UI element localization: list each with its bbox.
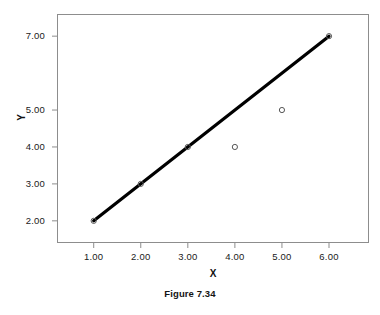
y-tick-label: 3.00	[11, 178, 45, 189]
y-tick-label: 2.00	[11, 215, 45, 226]
y-tick-label: 4.00	[11, 141, 45, 152]
x-tick-label: 4.00	[215, 251, 255, 262]
x-tick-label: 5.00	[262, 251, 302, 262]
figure-container: 2.003.004.005.007.00 1.002.003.004.005.0…	[0, 0, 380, 315]
y-tick-label: 7.00	[11, 30, 45, 41]
figure-caption: Figure 7.34	[0, 288, 380, 299]
x-tick-label: 3.00	[168, 251, 208, 262]
x-axis-title: X	[193, 268, 233, 279]
x-tick-label: 6.00	[309, 251, 349, 262]
x-axis-ticks	[94, 243, 329, 248]
x-tick-label: 2.00	[121, 251, 161, 262]
y-axis-title: Y	[16, 105, 27, 131]
x-tick-label: 1.00	[74, 251, 114, 262]
plot-frame	[57, 14, 369, 243]
